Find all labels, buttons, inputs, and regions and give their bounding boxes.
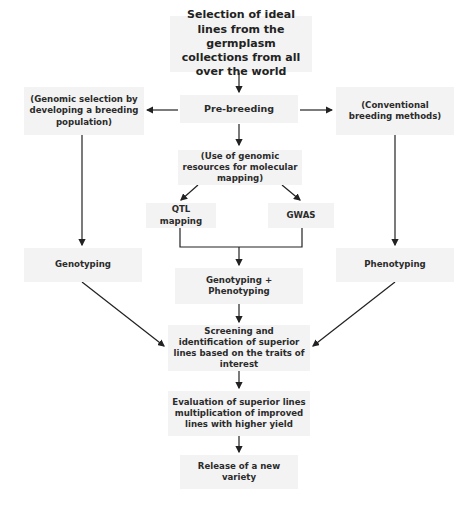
node-gwas: GWAS — [268, 203, 334, 228]
node-qtl-mapping: QTL mapping — [146, 203, 216, 228]
node-genotyping-phenotyping: Genotyping + Phenotyping — [175, 268, 303, 304]
node-screening: Screening and identification of superior… — [168, 325, 310, 371]
node-conventional: (Conventional breeding methods) — [336, 87, 454, 135]
node-genotyping: Genotyping — [24, 248, 142, 282]
node-evaluation: Evaluation of superior lines multiplicat… — [168, 391, 310, 436]
node-prebreeding: Pre-breeding — [180, 95, 298, 123]
node-genomic-resources: (Use of genomic resources for molecular … — [178, 150, 302, 185]
node-selection: Selection of ideal lines from the germpl… — [170, 16, 312, 72]
node-release: Release of a new variety — [180, 455, 298, 489]
node-phenotyping: Phenotyping — [336, 248, 454, 282]
node-genomic-selection: (Genomic selection by developing a breed… — [24, 87, 144, 135]
